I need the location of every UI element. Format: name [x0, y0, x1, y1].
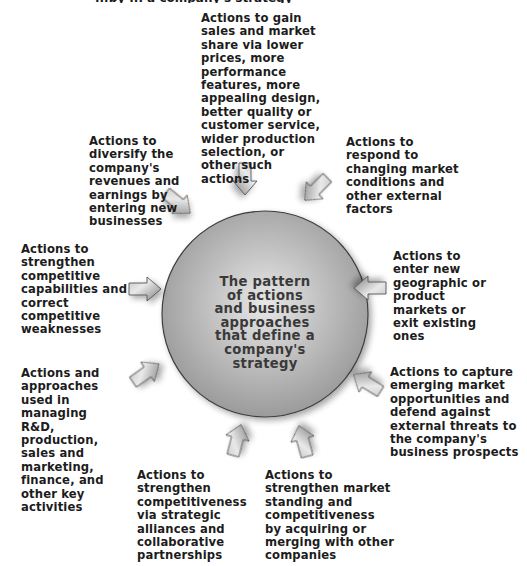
- node-label-right: Actions to enter new geographic or produ…: [393, 250, 486, 344]
- node-label-bottom-left: Actions and approaches used in managing …: [21, 367, 104, 514]
- arrow-icon-left: [129, 277, 161, 301]
- center-circle-label: The pattern of actions and business appr…: [188, 275, 342, 370]
- arrow-icon-bottom-center-right: [287, 422, 318, 459]
- node-label-bottom-center-right: Actions to strengthen market standing an…: [265, 469, 394, 563]
- node-label-top-right: Actions to respond to changing market co…: [346, 136, 459, 216]
- arrow-icon-bottom-right: [347, 364, 387, 401]
- node-label-bottom-center-left: Actions to strengthen competitiveness vi…: [137, 469, 247, 563]
- node-label-left: Actions to strengthen competitive capabi…: [21, 243, 127, 337]
- node-label-top: Actions to gain sales and market share v…: [201, 12, 320, 186]
- node-label-top-left: Actions to diversify the company's reven…: [89, 135, 180, 229]
- arrow-icon-bottom-center-left: [221, 421, 252, 458]
- arrow-icon-bottom-left: [126, 354, 166, 392]
- node-label-bottom-right: Actions to capture emerging market oppor…: [390, 366, 518, 460]
